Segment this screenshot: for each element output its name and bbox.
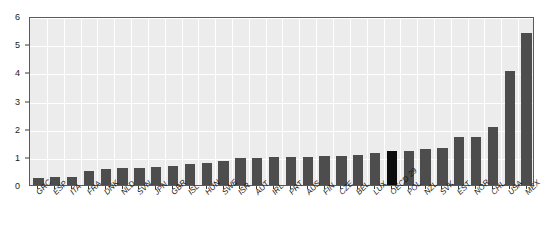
bar-nzl	[420, 149, 430, 185]
bar-irl	[269, 157, 279, 185]
bar-bel	[353, 155, 363, 185]
y-tick-label-0: 0	[15, 182, 20, 191]
y-tick-label-4: 4	[15, 69, 20, 78]
bar-aus	[303, 157, 313, 185]
bar-mex	[521, 33, 531, 185]
y-tick-label-1: 1	[15, 153, 20, 162]
y-axis: 0123456	[0, 0, 29, 246]
bar-nor	[471, 137, 481, 185]
y-tick-label-5: 5	[15, 41, 20, 50]
plot-area	[29, 17, 534, 186]
y-tick-label-6: 6	[15, 13, 20, 22]
bar-svk	[437, 148, 447, 185]
bar-chl	[488, 127, 498, 185]
x-axis: GRCESPITAFRADNKNLDSVNJPNGBRISLHUNSWEISRA…	[29, 186, 534, 246]
bar-usa	[505, 71, 515, 185]
y-tick-label-3: 3	[15, 97, 20, 106]
bar-est	[454, 137, 464, 185]
bar-fin	[319, 156, 329, 185]
bar-lux	[370, 153, 380, 185]
bar-oecd-29	[387, 151, 397, 185]
bars-layer	[30, 18, 533, 185]
bar-prt	[286, 157, 296, 185]
y-tick-label-2: 2	[15, 125, 20, 134]
